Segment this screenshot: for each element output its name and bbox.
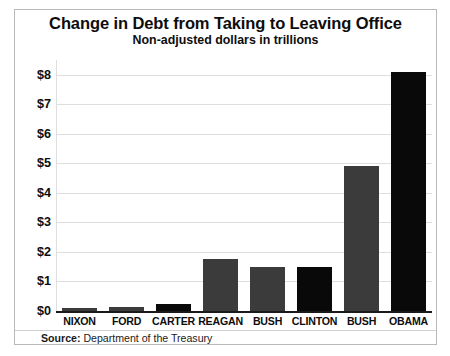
- y-axis-tick-label: $2: [37, 245, 51, 259]
- source-note: Source: Department of the Treasury: [41, 332, 212, 344]
- x-axis-labels: NIXONFORDCARTERREAGANBUSHCLINTONBUSHOBAM…: [56, 315, 432, 327]
- y-axis-tick-label: $8: [37, 68, 51, 82]
- x-axis-label-reagan-3: REAGAN: [197, 315, 244, 327]
- bar-slot: [385, 60, 432, 311]
- bar-bush-6: [344, 166, 379, 311]
- title-block: Change in Debt from Taking to Leaving Of…: [15, 14, 436, 47]
- x-axis-label-bush-6: BUSH: [338, 315, 385, 327]
- source-value: Department of the Treasury: [80, 332, 212, 344]
- y-axis-tick-label: $3: [37, 215, 51, 229]
- bar-slot: [291, 60, 338, 311]
- plot-area: $0$1$2$3$4$5$6$7$8: [56, 60, 432, 313]
- x-axis-label-ford-1: FORD: [103, 315, 150, 327]
- x-axis-label-bush-4: BUSH: [244, 315, 291, 327]
- y-axis-tick-label: $7: [37, 97, 51, 111]
- bar-bush-4: [250, 267, 285, 311]
- y-axis-tick-label: $5: [37, 156, 51, 170]
- x-axis-label-obama-7: OBAMA: [385, 315, 432, 327]
- bar-slot: [338, 60, 385, 311]
- bar-reagan-3: [203, 259, 238, 311]
- bar-slot: [150, 60, 197, 311]
- bar-slot: [103, 60, 150, 311]
- bar-obama-7: [391, 72, 426, 311]
- x-axis-label-nixon-0: NIXON: [56, 315, 103, 327]
- x-axis-label-carter-2: CARTER: [150, 315, 197, 327]
- bar-series: [56, 60, 432, 311]
- footer-divider: [15, 330, 436, 331]
- x-axis-baseline: [56, 311, 432, 313]
- bar-clinton-5: [297, 267, 332, 311]
- bar-slot: [56, 60, 103, 311]
- chart-title: Change in Debt from Taking to Leaving Of…: [15, 14, 436, 33]
- bar-carter-2: [156, 304, 191, 311]
- source-label: Source:: [41, 332, 80, 344]
- bar-slot: [197, 60, 244, 311]
- x-axis-label-clinton-5: CLINTON: [291, 315, 338, 327]
- y-axis-tick-label: $4: [37, 186, 51, 200]
- y-axis-tick-label: $6: [37, 127, 51, 141]
- chart-subtitle: Non-adjusted dollars in trillions: [15, 33, 436, 47]
- y-axis-tick-label: $1: [37, 274, 51, 288]
- bar-slot: [244, 60, 291, 311]
- y-axis-tick-label: $0: [37, 304, 51, 318]
- chart-container: Change in Debt from Taking to Leaving Of…: [14, 9, 437, 345]
